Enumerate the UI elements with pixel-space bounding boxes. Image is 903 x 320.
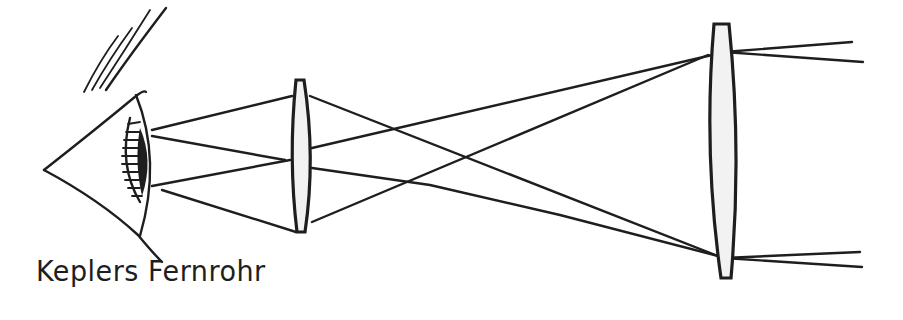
objective-lens: [710, 24, 736, 278]
light-rays: [152, 42, 863, 267]
eyepiece-lens: [292, 80, 310, 232]
eye-icon: [44, 8, 166, 262]
diagram-caption: Keplers Fernrohr: [36, 255, 266, 288]
